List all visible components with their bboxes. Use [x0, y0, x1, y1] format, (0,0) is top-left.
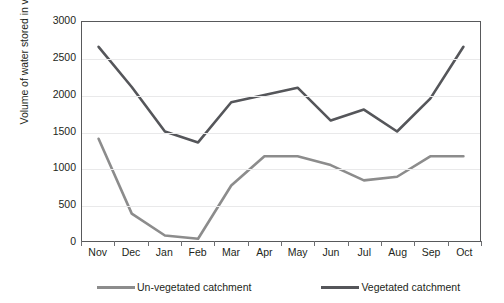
y-axis-tick-label: 0 [34, 236, 76, 247]
legend-swatch-vegetated [321, 286, 359, 289]
x-axis-tick-mark [81, 241, 82, 246]
gridline [82, 206, 480, 207]
x-axis-tick-mark [114, 241, 115, 246]
gridline [82, 133, 480, 134]
legend-swatch-unvegetated [97, 286, 135, 289]
x-axis-tick-mark [281, 241, 282, 246]
legend-item-unvegetated: Un-vegetated catchment [97, 281, 251, 293]
gridline [82, 96, 480, 97]
x-axis-tick-mark [248, 241, 249, 246]
x-axis-tick-label: Oct [442, 246, 486, 258]
chart-legend: Un-vegetated catchment Vegetated catchme… [81, 277, 481, 297]
y-axis-ticks: 300025002000150010005000 [30, 0, 76, 303]
series-line-vegetated [99, 47, 464, 143]
x-axis-tick-mark [448, 241, 449, 246]
series-line-unvegetated [99, 139, 464, 239]
y-axis-tick-label: 2500 [34, 52, 76, 63]
x-axis-ticks: NovDecJanFebMarAprMayJunJulAugSepOct [81, 246, 481, 264]
line-chart: Volume of water stored in valley tanks (… [0, 0, 504, 303]
gridline [82, 59, 480, 60]
series-lines [82, 22, 480, 241]
legend-label-vegetated: Vegetated catchment [361, 281, 460, 293]
legend-item-vegetated: Vegetated catchment [321, 281, 460, 293]
y-axis-tick-label: 2000 [34, 89, 76, 100]
x-axis-tick-mark [314, 241, 315, 246]
x-axis-tick-mark [214, 241, 215, 246]
legend-label-unvegetated: Un-vegetated catchment [137, 281, 251, 293]
y-axis-tick-label: 3000 [34, 15, 76, 26]
x-axis-tick-mark [348, 241, 349, 246]
x-axis-tick-mark [181, 241, 182, 246]
y-axis-tick-label: 500 [34, 199, 76, 210]
x-axis-tick-mark [148, 241, 149, 246]
y-axis-tick-label: 1000 [34, 162, 76, 173]
x-axis-tick-mark [381, 241, 382, 246]
x-axis-tick-mark [481, 241, 482, 246]
y-axis-tick-label: 1500 [34, 126, 76, 137]
plot-area [81, 21, 481, 242]
x-axis-tick-mark [414, 241, 415, 246]
y-axis-label-text: Volume of water stored in valley tanks (… [18, 0, 30, 124]
gridline [82, 169, 480, 170]
